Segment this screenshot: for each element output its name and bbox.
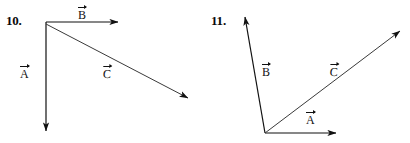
figure-10-vectors	[46, 22, 188, 131]
figure-number-10: 10.	[6, 13, 22, 29]
vector-label-10-A-text: A	[20, 67, 29, 81]
vector-11-C-line	[265, 31, 400, 133]
vector-label-11-B: B	[262, 62, 270, 78]
vector-label-11-A: A	[306, 110, 315, 126]
vector-label-11-B-text: B	[262, 65, 270, 79]
vector-10-C-line	[46, 24, 188, 98]
vector-diagram-figure: 10. 11. A B C B	[0, 0, 410, 143]
vector-drawing-canvas	[0, 0, 410, 143]
vector-label-10-C-text: C	[103, 67, 112, 81]
vector-label-11-C-text: C	[329, 65, 338, 79]
vector-label-11-A-text: A	[306, 113, 315, 127]
figure-number-11: 11.	[211, 13, 226, 29]
vector-label-10-B-text: B	[78, 8, 86, 22]
vector-label-10-C: C	[103, 64, 111, 80]
vector-label-10-B: B	[78, 5, 86, 21]
vector-label-11-C: C	[330, 62, 338, 78]
vector-label-10-A: A	[20, 64, 29, 80]
